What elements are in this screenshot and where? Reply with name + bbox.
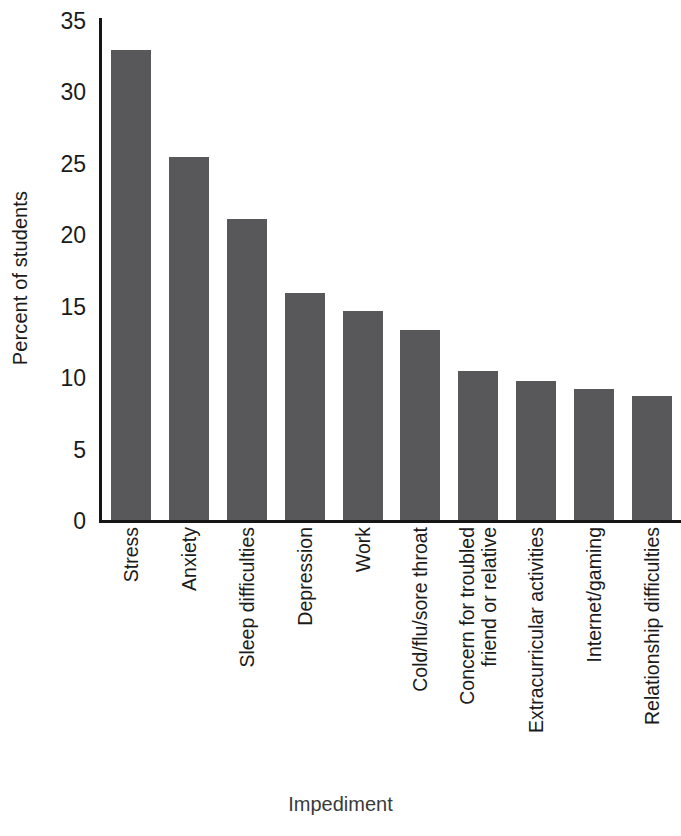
x-axis-tick-label-text: Stress — [120, 527, 142, 802]
x-axis-tick-label-text: Internet/gaming — [583, 527, 605, 802]
y-axis-tick-label: 20 — [40, 224, 86, 247]
x-axis-tick-label: Work — [333, 527, 392, 802]
x-axis-tick-label-text: Concern for troubled friend or relative — [456, 527, 500, 802]
x-axis-tick-label: Stress — [101, 527, 160, 802]
bar — [343, 311, 383, 520]
x-axis-tick-label: Cold/flu/sore throat — [391, 527, 450, 802]
bar — [632, 396, 672, 520]
x-axis-title: Impediment — [0, 793, 681, 816]
x-axis-tick-label-text: Depression — [294, 527, 316, 802]
bar-series — [102, 20, 681, 520]
bar — [285, 293, 325, 520]
x-axis-line — [99, 520, 681, 523]
bar — [111, 50, 151, 520]
x-axis-tick-label-text: Cold/flu/sore throat — [409, 527, 431, 802]
y-axis-tick-label: 30 — [40, 81, 86, 104]
plot-area — [99, 18, 681, 523]
y-axis-tick-label: 35 — [40, 10, 86, 33]
y-axis-tick-label: 25 — [40, 153, 86, 176]
bar — [169, 157, 209, 520]
x-axis-tick-label: Relationship difficulties — [623, 527, 681, 802]
x-axis-tick-label-text: Extracurricular activities — [525, 527, 547, 802]
x-axis-tick-label: Internet/gaming — [565, 527, 624, 802]
x-axis-tick-label: Sleep difficulties — [217, 527, 276, 802]
x-axis-tick-label: Depression — [275, 527, 334, 802]
y-axis-tick-label: 5 — [40, 439, 86, 462]
y-axis-tick-label: 0 — [40, 510, 86, 533]
x-axis-tick-label-text: Work — [352, 527, 374, 802]
x-axis-tick-label: Extracurricular activities — [507, 527, 566, 802]
x-axis-tick-label-text: Relationship difficulties — [641, 527, 663, 802]
x-axis-tick-labels: StressAnxietySleep difficultiesDepressio… — [102, 527, 681, 802]
y-axis-tick-label: 15 — [40, 296, 86, 319]
bar-chart: Percent of students 05101520253035 Stres… — [0, 0, 681, 836]
bar — [400, 330, 440, 520]
y-axis-tick-label: 10 — [40, 367, 86, 390]
x-axis-tick-label: Anxiety — [159, 527, 218, 802]
bar — [574, 389, 614, 520]
x-axis-tick-label-text: Sleep difficulties — [236, 527, 258, 802]
bar — [516, 381, 556, 520]
y-axis-tick-labels: 05101520253035 — [40, 0, 86, 836]
bar — [458, 371, 498, 520]
x-axis-tick-label: Concern for troubled friend or relative — [449, 527, 508, 802]
y-axis-title: Percent of students — [0, 28, 40, 528]
bar — [227, 219, 267, 520]
x-axis-tick-label-text: Anxiety — [178, 527, 200, 802]
